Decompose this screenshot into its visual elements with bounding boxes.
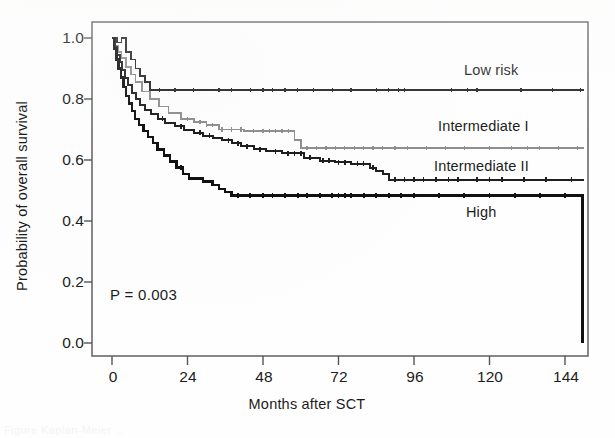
ytick-label-2: 0.6 xyxy=(50,151,84,169)
ytick-label-1: 0.8 xyxy=(50,90,84,108)
curve-label-high: High xyxy=(466,204,496,220)
xtick-label-144: 144 xyxy=(553,368,579,386)
y-axis-title: Probability of overall survival xyxy=(14,101,30,291)
pvalue-annotation: P = 0.003 xyxy=(110,286,177,303)
xtick-label-0: 0 xyxy=(109,368,118,386)
xtick-label-24: 24 xyxy=(179,368,196,386)
survival-curves xyxy=(112,38,584,343)
ytick-label-4: 0.2 xyxy=(50,273,84,291)
figure-root: 1.0 0.8 0.6 0.4 0.2 0.0 0 24 48 72 96 12… xyxy=(0,0,615,438)
figure-caption-remnant: Figure Kaplan-Meier ... xyxy=(4,424,125,436)
xtick-label-96: 96 xyxy=(406,368,423,386)
ytick-label-3: 0.4 xyxy=(50,212,84,230)
curve-label-intermediate-2: Intermediate II xyxy=(434,158,529,174)
ytick-label-5: 0.0 xyxy=(50,334,84,352)
curve-label-low-risk: Low risk xyxy=(464,62,518,78)
curve-label-intermediate-1: Intermediate I xyxy=(438,118,529,134)
xtick-label-120: 120 xyxy=(477,368,503,386)
axis-ticks xyxy=(84,38,565,365)
xtick-label-48: 48 xyxy=(255,368,272,386)
chart-canvas xyxy=(0,0,615,438)
x-axis-title: Months after SCT xyxy=(249,396,366,412)
ytick-label-0: 1.0 xyxy=(50,29,84,47)
xtick-label-72: 72 xyxy=(330,368,347,386)
